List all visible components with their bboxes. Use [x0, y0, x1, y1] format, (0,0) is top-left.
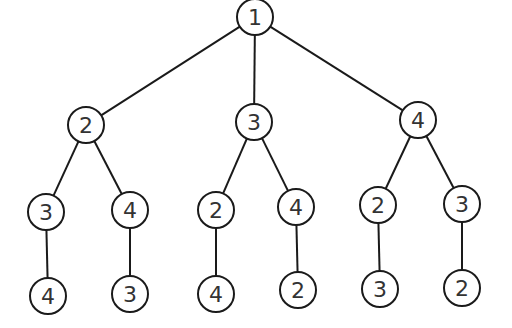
node-label: 2: [291, 278, 305, 303]
tree-edge: [54, 141, 79, 195]
tree-diagram: 1234342423434232: [0, 0, 512, 328]
edges-layer: [46, 27, 462, 278]
tree-edge: [296, 225, 297, 272]
tree-node: 1: [237, 0, 273, 35]
tree-edge: [223, 139, 247, 194]
tree-node: 4: [400, 102, 436, 138]
node-label: 2: [209, 198, 223, 223]
tree-node: 2: [360, 187, 396, 223]
node-label: 2: [455, 276, 469, 301]
node-label: 4: [209, 282, 223, 307]
tree-edge: [386, 136, 411, 188]
node-label: 4: [411, 108, 425, 133]
node-label: 2: [371, 193, 385, 218]
node-label: 3: [39, 200, 53, 225]
tree-node: 3: [236, 104, 272, 140]
tree-node: 2: [198, 192, 234, 228]
tree-node: 3: [28, 194, 64, 230]
tree-node: 2: [444, 270, 480, 306]
tree-svg: 1234342423434232: [0, 0, 512, 328]
node-label: 4: [123, 198, 137, 223]
tree-edge: [46, 230, 47, 278]
tree-node: 4: [30, 278, 66, 314]
tree-node: 3: [112, 276, 148, 312]
node-label: 3: [247, 110, 261, 135]
node-label: 4: [289, 195, 303, 220]
tree-node: 3: [362, 271, 398, 307]
tree-edge: [262, 138, 288, 191]
tree-node: 4: [112, 192, 148, 228]
tree-edge: [101, 27, 240, 116]
node-label: 3: [373, 277, 387, 302]
node-label: 2: [79, 113, 93, 138]
tree-edge: [270, 27, 403, 111]
node-label: 3: [123, 282, 137, 307]
tree-node: 2: [280, 272, 316, 308]
tree-node: 3: [444, 186, 480, 222]
node-label: 4: [41, 284, 55, 309]
tree-node: 4: [198, 276, 234, 312]
tree-node: 2: [68, 107, 104, 143]
tree-edge: [426, 136, 453, 188]
node-label: 1: [248, 5, 262, 30]
tree-edge: [94, 141, 121, 194]
tree-node: 4: [278, 189, 314, 225]
tree-edge: [254, 35, 255, 104]
tree-edge: [378, 223, 379, 271]
node-label: 3: [455, 192, 469, 217]
